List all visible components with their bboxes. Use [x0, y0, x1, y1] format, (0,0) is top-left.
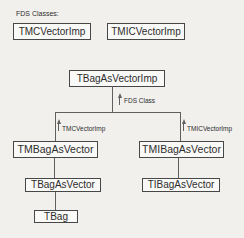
- node-tmicvectorimp: TMICVectorImp: [107, 23, 185, 40]
- arrow-up-tmicvectorimp-icon: [181, 119, 186, 131]
- node-tmibagasvector: TMIBagAsVector: [139, 141, 224, 158]
- arrow-stem: [58, 124, 59, 131]
- connector-tmbag-tbagas: [54, 158, 55, 178]
- class-hierarchy-diagram: FDS Classes: TMCVectorImp TMICVectorImp …: [0, 0, 244, 238]
- node-tbag: TBag: [34, 210, 78, 223]
- node-tbagasvectorimp: TBagAsVectorImp: [69, 70, 165, 87]
- arrow-up-fds-class-icon: [117, 93, 122, 105]
- node-tmbagasvector: TMBagAsVector: [13, 141, 98, 158]
- node-tmcvectorimp: TMCVectorImp: [13, 23, 91, 40]
- edge-label-tmcvectorimp: TMCVectorImp: [62, 126, 105, 133]
- connector-tmibag-tibagas: [178, 158, 179, 178]
- arrow-up-tmcvectorimp-icon: [56, 119, 61, 131]
- edge-label-fds-class: FDS Class: [124, 98, 155, 105]
- arrow-stem: [183, 124, 184, 131]
- node-tbagasvector: TBagAsVector: [25, 178, 101, 192]
- arrow-stem: [119, 98, 120, 105]
- diagram-title: FDS Classes:: [16, 10, 59, 17]
- node-tibagasvector: TIBagAsVector: [142, 178, 220, 192]
- connector-tbagas-tbag: [55, 192, 56, 210]
- edge-label-tmicvectorimp: TMICVectorImp: [187, 126, 232, 133]
- connector-tbagasvectorimp-down: [112, 86, 113, 112]
- connector-branch-horizontal: [55, 112, 181, 113]
